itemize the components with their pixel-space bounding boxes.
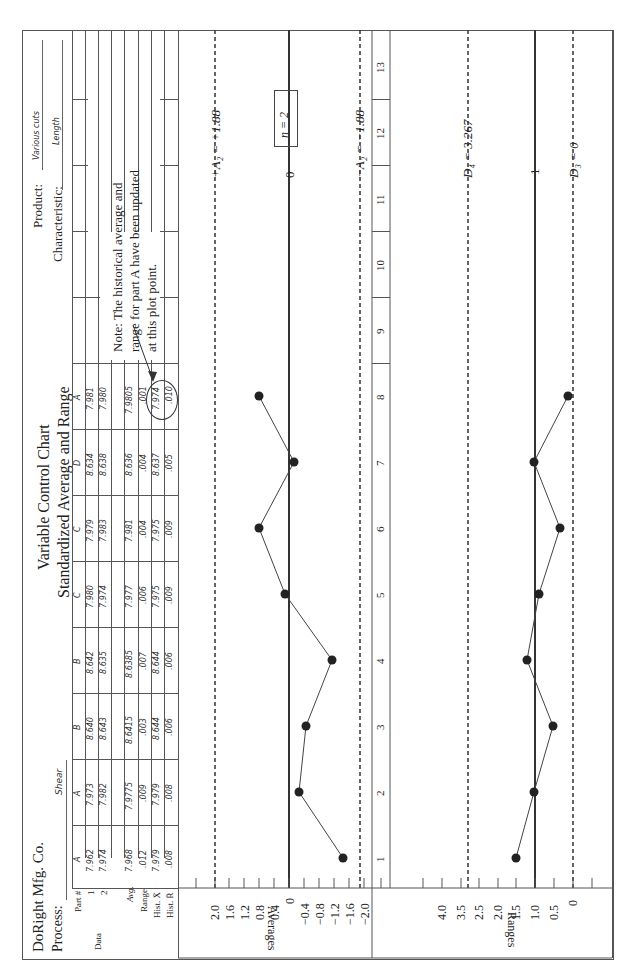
avg-tick: −2.0 bbox=[358, 903, 373, 925]
sample-number: 6 bbox=[374, 527, 386, 533]
sample-col-sep bbox=[372, 99, 390, 100]
avg-tick: −0.4 bbox=[298, 903, 313, 925]
sample-number: 12 bbox=[374, 128, 386, 139]
lcl-range-label: D₃ = 0 bbox=[566, 142, 582, 178]
axis-strip-border bbox=[178, 888, 179, 958]
avg-tick: −1.2 bbox=[328, 903, 343, 925]
ucl-range-label: D₄ = 3.267 bbox=[460, 120, 476, 178]
sample-number: 4 bbox=[374, 659, 386, 665]
sample-col-sep bbox=[372, 165, 390, 166]
avg-tick: 2.0 bbox=[208, 905, 223, 920]
ranges-axis-label: Ranges bbox=[504, 912, 519, 947]
center-range-label: 1 bbox=[527, 169, 543, 176]
chart-bottom-border bbox=[612, 30, 613, 958]
sample-size-label: n = 2 bbox=[277, 112, 292, 138]
range-tick: 0.5 bbox=[547, 905, 562, 920]
sample-number: 8 bbox=[374, 395, 386, 401]
sample-number: 11 bbox=[374, 194, 386, 205]
avg-tick: 1.6 bbox=[223, 905, 238, 920]
range-tick: 2.5 bbox=[472, 905, 487, 920]
sample-number: 9 bbox=[374, 329, 386, 335]
sample-col-sep bbox=[372, 297, 390, 298]
avg-tick: 0 bbox=[283, 898, 298, 904]
avg-tick: −1.6 bbox=[343, 903, 358, 925]
ucl-avg-label: +A₂ = +1.88 bbox=[208, 110, 224, 178]
range-tick: 1.0 bbox=[528, 905, 543, 920]
range-tick: 4.0 bbox=[435, 905, 450, 920]
center-avg-label: 0 bbox=[282, 172, 298, 179]
sample-number: 3 bbox=[374, 725, 386, 731]
averages-axis-label: Averages bbox=[264, 906, 279, 950]
range-tick: 0 bbox=[566, 900, 581, 906]
chart-graphics bbox=[0, 0, 631, 974]
sample-number: 1 bbox=[374, 857, 386, 863]
sample-number: 13 bbox=[374, 62, 386, 73]
sample-col-sep bbox=[372, 231, 390, 232]
sample-number: 7 bbox=[374, 461, 386, 467]
sample-col-sep bbox=[372, 363, 390, 364]
range-tick: 3.5 bbox=[454, 905, 469, 920]
avg-tick: −0.8 bbox=[313, 903, 328, 925]
avg-tick: 1.2 bbox=[238, 905, 253, 920]
sample-number: 2 bbox=[374, 791, 386, 797]
lcl-avg-label: −A₂ = −1.88 bbox=[352, 110, 368, 178]
sample-number: 10 bbox=[374, 260, 386, 271]
sample-number: 5 bbox=[374, 593, 386, 599]
